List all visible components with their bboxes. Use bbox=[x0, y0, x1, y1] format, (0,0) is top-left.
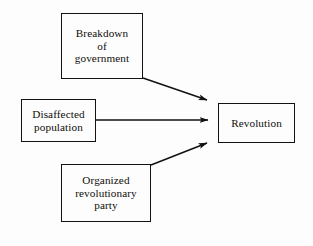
node-revolution-label: Revolution bbox=[219, 117, 294, 130]
node-organized-label: Organized revolutionary party bbox=[62, 174, 150, 212]
arrow-breakdown-to-revolution bbox=[143, 78, 207, 100]
arrow-organized-to-revolution bbox=[151, 143, 207, 165]
node-breakdown-label: Breakdown of government bbox=[62, 27, 142, 65]
flow-diagram-canvas: Breakdown of government Disaffected popu… bbox=[0, 0, 313, 246]
node-disaffected-population: Disaffected population bbox=[21, 99, 96, 142]
node-organized-revolutionary-party: Organized revolutionary party bbox=[61, 164, 151, 222]
node-breakdown-of-government: Breakdown of government bbox=[61, 13, 143, 79]
node-disaffected-label: Disaffected population bbox=[22, 108, 95, 133]
node-revolution: Revolution bbox=[218, 103, 295, 143]
